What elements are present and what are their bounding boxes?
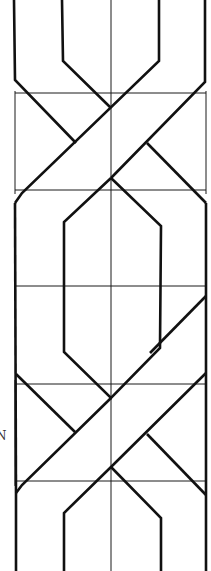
hexagon-center <box>64 178 161 398</box>
braid-diagram: N <box>0 0 211 571</box>
strand-x-right-bottom <box>147 434 206 495</box>
strand-inner-left-top <box>62 0 111 108</box>
strand-inner-right-bottom <box>111 467 161 571</box>
strand-outer-left-top <box>14 0 76 143</box>
strand-x-right-top <box>147 143 206 203</box>
construction-grid <box>15 0 206 571</box>
strand-diag-lower-left <box>16 398 111 493</box>
strand-outer-left-mid <box>15 203 16 493</box>
strand-diag-lower-right <box>150 296 206 353</box>
strand-x-left-bottom <box>16 374 75 432</box>
side-label-n: N <box>0 429 7 443</box>
